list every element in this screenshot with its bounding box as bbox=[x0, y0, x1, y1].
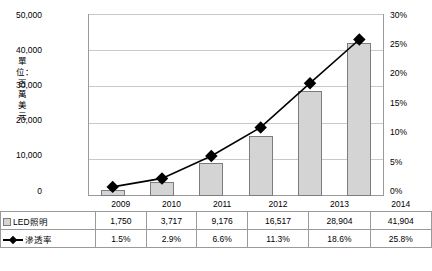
legend-bar-swatch-icon bbox=[3, 218, 11, 226]
cell-led-2010: 3,717 bbox=[146, 212, 197, 230]
y-tick-right-5: 5% bbox=[390, 157, 402, 167]
y-tick-right-20: 20% bbox=[390, 68, 407, 78]
category-2010: 2010 bbox=[146, 196, 197, 212]
line-marker-2009 bbox=[106, 181, 118, 193]
legend-item-penetration: 滲透率 bbox=[1, 230, 96, 248]
cell-pen-2009: 1.5% bbox=[96, 230, 147, 248]
line-marker-2011 bbox=[205, 150, 217, 162]
cell-pen-2014: 25.8% bbox=[370, 230, 431, 248]
y-tick-left-20000: 20,000 bbox=[16, 115, 42, 125]
y-tick-right-0: 0% bbox=[390, 186, 402, 196]
chart-container: 單位：百萬美元 50,000 40,000 30,000 20,000 10,0… bbox=[0, 0, 432, 271]
y-tick-left-50000: 50,000 bbox=[16, 10, 42, 20]
cell-led-2012: 16,517 bbox=[247, 212, 308, 230]
y-tick-left-40000: 40,000 bbox=[16, 45, 42, 55]
cell-led-2011: 9,176 bbox=[197, 212, 248, 230]
cell-pen-2010: 2.9% bbox=[146, 230, 197, 248]
cell-led-2009: 1,750 bbox=[96, 212, 147, 230]
line-series bbox=[88, 14, 384, 196]
category-row-corner bbox=[1, 196, 96, 212]
data-table: 2009 2010 2011 2012 2013 2014 LED照明 1,75… bbox=[0, 196, 432, 248]
cell-pen-2012: 11.3% bbox=[247, 230, 308, 248]
y-tick-right-10: 10% bbox=[390, 127, 407, 137]
y-tick-right-25: 25% bbox=[390, 39, 407, 49]
category-2014: 2014 bbox=[370, 196, 431, 212]
category-2011: 2011 bbox=[197, 196, 248, 212]
table-row-penetration: 滲透率 1.5% 2.9% 6.6% 11.3% 18.6% 25.8% bbox=[1, 230, 432, 248]
cell-led-2014: 41,904 bbox=[370, 212, 431, 230]
y-tick-left-0: 0 bbox=[37, 186, 42, 196]
y-tick-right-30: 30% bbox=[390, 10, 407, 20]
penetration-line bbox=[113, 39, 360, 186]
legend-item-led: LED照明 bbox=[1, 212, 96, 230]
legend-line-marker-icon bbox=[3, 236, 23, 244]
category-2009: 2009 bbox=[96, 196, 147, 212]
category-2012: 2012 bbox=[247, 196, 308, 212]
cell-led-2013: 28,904 bbox=[309, 212, 370, 230]
legend-label-led: LED照明 bbox=[13, 217, 48, 227]
line-marker-2010 bbox=[156, 172, 168, 184]
y-tick-right-15: 15% bbox=[390, 98, 407, 108]
table-row-led: LED照明 1,750 3,717 9,176 16,517 28,904 41… bbox=[1, 212, 432, 230]
category-row: 2009 2010 2011 2012 2013 2014 bbox=[1, 196, 432, 212]
plot-area bbox=[88, 14, 384, 196]
y-tick-left-10000: 10,000 bbox=[16, 150, 42, 160]
cell-pen-2011: 6.6% bbox=[197, 230, 248, 248]
cell-pen-2013: 18.6% bbox=[309, 230, 370, 248]
category-2013: 2013 bbox=[309, 196, 370, 212]
y-tick-left-30000: 30,000 bbox=[16, 80, 42, 90]
legend-label-penetration: 滲透率 bbox=[25, 235, 52, 245]
